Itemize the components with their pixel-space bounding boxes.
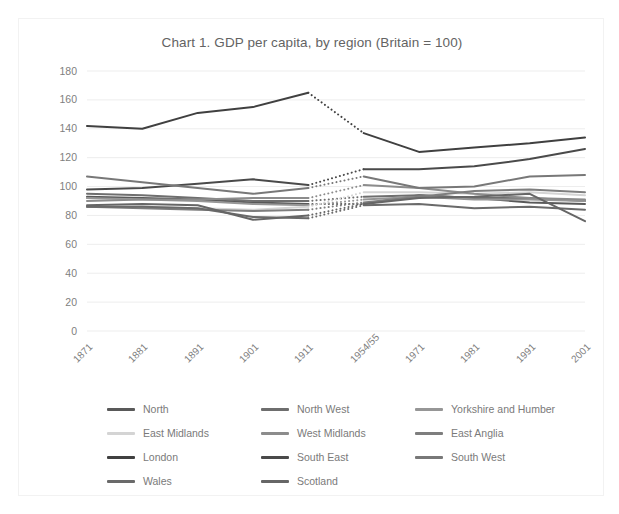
y-axis-tick-label: 100 — [59, 180, 77, 192]
legend-label: Scotland — [297, 475, 338, 487]
chart-card: Chart 1. GDP per capita, by region (Brit… — [18, 18, 604, 496]
legend-item-scotland[interactable]: Scotland — [261, 469, 415, 493]
legend-item-north[interactable]: North — [107, 397, 261, 421]
y-axis-tick-label: 160 — [59, 93, 77, 105]
y-axis-tick-label: 40 — [65, 267, 77, 279]
series-line-gap — [308, 93, 363, 133]
y-axis-tick-label: 20 — [65, 296, 77, 308]
legend-swatch-icon — [261, 432, 289, 435]
series-line — [364, 133, 585, 152]
legend-item-east-anglia[interactable]: East Anglia — [415, 421, 569, 445]
series-line — [87, 93, 308, 129]
y-axis-tick-labels: 020406080100120140160180 — [59, 65, 77, 337]
legend-label: Yorkshire and Humber — [451, 403, 555, 415]
y-axis-tick-label: 60 — [65, 238, 77, 250]
y-axis-tick-label: 140 — [59, 122, 77, 134]
legend-swatch-icon — [107, 456, 135, 459]
legend-label: London — [143, 451, 178, 463]
legend-item-south-west[interactable]: South West — [415, 445, 569, 469]
y-axis-tick-label: 180 — [59, 65, 77, 77]
legend-label: Wales — [143, 475, 172, 487]
plot-area: 020406080100120140160180 — [19, 59, 605, 359]
legend-item-south-east[interactable]: South East — [261, 445, 415, 469]
series-line-gap — [308, 205, 363, 218]
legend-swatch-icon — [107, 432, 135, 435]
legend-label: North West — [297, 403, 349, 415]
chart-title: Chart 1. GDP per capita, by region (Brit… — [19, 35, 605, 50]
y-axis-tick-label: 120 — [59, 151, 77, 163]
series-lines — [87, 93, 585, 222]
series-line — [87, 176, 308, 193]
legend-label: South East — [297, 451, 348, 463]
legend-item-west-midlands[interactable]: West Midlands — [261, 421, 415, 445]
legend-swatch-icon — [415, 432, 443, 435]
legend-label: East Anglia — [451, 427, 504, 439]
legend-item-wales[interactable]: Wales — [107, 469, 261, 493]
series-line — [364, 149, 585, 169]
y-axis-tick-label: 0 — [71, 325, 77, 337]
legend-item-east-midlands[interactable]: East Midlands — [107, 421, 261, 445]
legend-swatch-icon — [415, 408, 443, 411]
legend-item-london[interactable]: London — [107, 445, 261, 469]
legend-swatch-icon — [107, 480, 135, 483]
legend-swatch-icon — [261, 408, 289, 411]
chart-legend: NorthNorth WestYorkshire and HumberEast … — [19, 397, 605, 493]
legend-label: East Midlands — [143, 427, 209, 439]
series-london — [87, 93, 585, 152]
legend-swatch-icon — [415, 456, 443, 459]
y-axis-tick-label: 80 — [65, 209, 77, 221]
legend-swatch-icon — [261, 456, 289, 459]
legend-label: North — [143, 403, 169, 415]
chart-svg: 020406080100120140160180 — [19, 59, 605, 359]
legend-label: South West — [451, 451, 505, 463]
legend-item-yorkshire-and-humber[interactable]: Yorkshire and Humber — [415, 397, 569, 421]
legend-swatch-icon — [261, 480, 289, 483]
legend-swatch-icon — [107, 408, 135, 411]
legend-item-north-west[interactable]: North West — [261, 397, 415, 421]
legend-label: West Midlands — [297, 427, 366, 439]
